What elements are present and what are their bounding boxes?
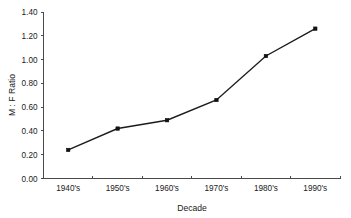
y-tick-label: 0.80 [22,79,38,88]
y-tick-label: 0.00 [22,175,38,184]
x-tick-label: 1950's [106,184,130,193]
data-series-ratio [67,27,317,152]
x-axis-title: Decade [177,203,207,213]
data-point-marker [314,27,317,30]
y-tick-label: 1.00 [22,56,38,65]
y-tick-label: 1.20 [22,32,38,41]
y-tick-label: 1.40 [22,8,38,17]
data-point-marker [67,148,70,151]
x-tick-label: 1990's [303,184,327,193]
y-tick-label: 0.60 [22,103,38,112]
x-tick-label: 1940's [56,184,80,193]
series-markers-ratio [67,27,317,152]
y-axis: 0.000.200.400.600.801.001.201.40 [22,8,44,184]
y-tick-label: 0.40 [22,127,38,136]
y-axis-title: M : F Ratio [7,74,17,116]
data-point-marker [165,119,168,122]
y-tick-label: 0.20 [22,151,38,160]
x-axis-tick-labels: 1940's1950's1960's1970's1980's1990's [56,184,327,193]
x-tick-label: 1970's [205,184,229,193]
data-point-marker [215,98,218,101]
x-tick-label: 1980's [254,184,278,193]
chart-container: 0.000.200.400.600.801.001.201.40 1940's1… [0,0,351,218]
y-axis-tick-labels: 0.000.200.400.600.801.001.201.40 [22,8,38,184]
line-chart: 0.000.200.400.600.801.001.201.40 1940's1… [0,0,351,218]
series-line-ratio [68,29,315,150]
data-point-marker [116,127,119,130]
x-axis: 1940's1950's1960's1970's1980's1990's [44,176,341,193]
x-tick-label: 1960's [155,184,179,193]
data-point-marker [264,54,267,57]
